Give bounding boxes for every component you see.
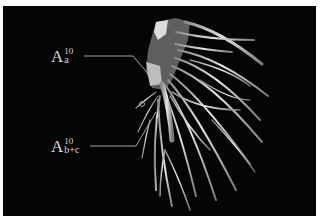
leader-line-bc	[90, 112, 156, 146]
label-subscript: b+c	[64, 144, 79, 155]
label-a10a: A10a	[51, 47, 69, 65]
label-base: A	[51, 47, 63, 66]
label-base: A	[51, 137, 63, 156]
label-subscript: a	[64, 54, 68, 65]
leader-line-a	[84, 56, 150, 76]
label-a10bc: A10b+c	[51, 137, 79, 155]
vessel-rendering	[0, 0, 321, 218]
